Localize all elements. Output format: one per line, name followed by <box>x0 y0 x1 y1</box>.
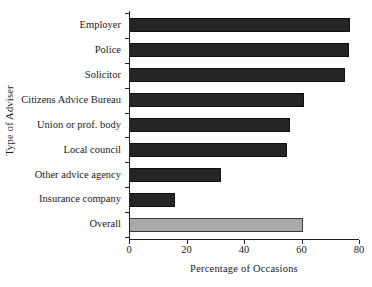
bar-local-council <box>129 143 287 157</box>
y-axis-tick <box>125 13 129 14</box>
bar-row <box>129 88 359 113</box>
bar-series <box>129 13 359 237</box>
x-axis-tick-label: 40 <box>239 245 250 256</box>
bar-chart: Type of Adviser Employer Police Solicito… <box>0 0 372 287</box>
category-label-list: Employer Police Solicitor Citizens Advic… <box>14 13 125 237</box>
x-axis-tick-label: 0 <box>126 245 131 256</box>
bar-union-or-prof-body <box>129 118 290 132</box>
bar-police <box>129 43 349 57</box>
category-label: Solicitor <box>14 63 125 88</box>
bar-row <box>129 63 359 88</box>
bar-insurance-company <box>129 193 175 207</box>
x-axis-tick-label: 20 <box>181 245 192 256</box>
bar-row <box>129 162 359 187</box>
bar-row <box>129 137 359 162</box>
x-axis-tick-label: 80 <box>354 245 365 256</box>
y-axis-line <box>129 11 130 239</box>
category-label: Local council <box>14 137 125 162</box>
bar-row <box>129 113 359 138</box>
y-axis-title-text: Type of Adviser <box>4 85 15 156</box>
y-axis-tick <box>125 113 129 114</box>
plot-area <box>129 13 359 237</box>
category-label: Other advice agency <box>14 162 125 187</box>
bar-overall <box>129 218 303 232</box>
bar-employer <box>129 18 350 32</box>
y-axis-tick <box>125 63 129 64</box>
y-axis-tick <box>125 88 129 89</box>
bar-other-advice-agency <box>129 168 221 182</box>
bar-row <box>129 187 359 212</box>
category-label: Employer <box>14 13 125 38</box>
bar-row <box>129 38 359 63</box>
category-label: Overall <box>14 212 125 237</box>
y-axis-tick <box>125 38 129 39</box>
y-axis-tick <box>125 212 129 213</box>
y-axis-tick <box>125 162 129 163</box>
x-axis-title: Percentage of Occasions <box>129 263 359 274</box>
bar-solicitor <box>129 68 345 82</box>
y-axis-tick <box>125 237 129 238</box>
y-axis-tick <box>125 187 129 188</box>
bar-row <box>129 212 359 237</box>
bar-citizens-advice-bureau <box>129 93 304 107</box>
x-axis-tick-label: 60 <box>296 245 307 256</box>
category-label: Insurance company <box>14 187 125 212</box>
category-label: Citizens Advice Bureau <box>14 88 125 113</box>
category-label: Union or prof. body <box>14 113 125 138</box>
category-label: Police <box>14 38 125 63</box>
y-axis-tick <box>125 137 129 138</box>
bar-row <box>129 13 359 38</box>
